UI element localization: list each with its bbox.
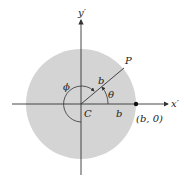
y-axis-label: y′	[77, 7, 87, 18]
boundary-point-label: (b, 0)	[136, 113, 163, 124]
x-axis-label: x′	[171, 98, 180, 109]
center-label: C	[84, 108, 92, 119]
boundary-point	[134, 102, 138, 106]
diagram: y′ x′ P b θ ϕ C b (b, 0)	[0, 0, 184, 182]
point-p-label: P	[124, 55, 132, 66]
radius-axis-label: b	[116, 108, 122, 119]
theta-label: θ	[108, 89, 114, 100]
phi-label: ϕ	[63, 81, 70, 92]
radius-ray-label: b	[98, 75, 104, 86]
